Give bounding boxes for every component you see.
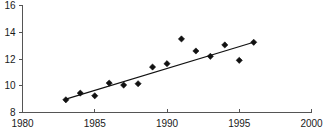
y-tick-label: 8 — [10, 107, 16, 118]
x-tick-label: 1990 — [156, 118, 179, 129]
y-tick-label: 12 — [4, 54, 16, 65]
data-point-marker — [149, 64, 155, 70]
trend-line — [66, 42, 254, 99]
x-tick-label: 1995 — [228, 118, 251, 129]
data-point-marker — [222, 42, 228, 48]
data-point-marker — [92, 93, 98, 99]
data-point-marker — [193, 48, 199, 54]
chart-plot-area: 81012141619801985199019952000 — [0, 0, 326, 135]
x-tick-label: 1980 — [11, 118, 34, 129]
data-point-marker — [178, 36, 184, 42]
data-point-marker — [63, 97, 69, 103]
data-point-marker — [121, 82, 127, 88]
data-point-marker — [164, 61, 170, 67]
data-point-marker — [135, 81, 141, 87]
y-tick-label: 16 — [4, 0, 16, 11]
data-point-marker — [236, 57, 242, 63]
y-tick-label: 10 — [4, 80, 16, 91]
y-tick-label: 14 — [4, 27, 16, 38]
x-tick-label: 2000 — [300, 118, 323, 129]
scatter-chart: 81012141619801985199019952000 — [0, 0, 326, 135]
x-tick-label: 1985 — [84, 118, 107, 129]
